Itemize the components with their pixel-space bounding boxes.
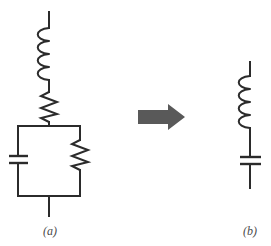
circuit-b-group — [239, 62, 261, 188]
inductor-b-icon — [239, 76, 250, 128]
circuit-a-group — [9, 12, 88, 216]
circuit-canvas — [0, 0, 271, 246]
resistor-series-icon — [41, 92, 57, 122]
capacitor-parallel-icon — [9, 156, 28, 163]
caption-a: (a) — [40, 224, 60, 239]
equivalence-arrow-icon — [138, 104, 185, 130]
caption-b: (b) — [240, 224, 260, 239]
inductor-icon — [38, 28, 49, 80]
capacitor-b-icon — [240, 157, 261, 164]
circuit-figure: (a) (b) — [0, 0, 271, 246]
resistor-parallel-icon — [72, 140, 88, 170]
